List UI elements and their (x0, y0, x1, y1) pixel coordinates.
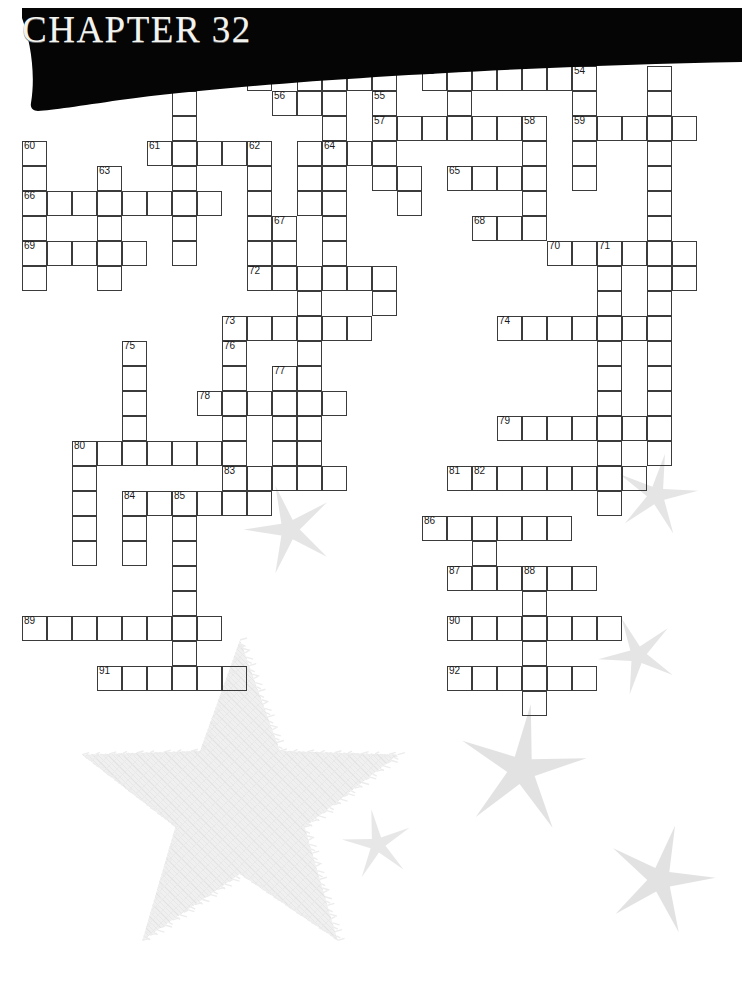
crossword-cell[interactable] (497, 666, 522, 691)
crossword-cell[interactable] (522, 666, 547, 691)
crossword-cell-84[interactable]: 84 (122, 491, 147, 516)
crossword-cell[interactable] (247, 466, 272, 491)
crossword-cell[interactable] (572, 166, 597, 191)
crossword-cell[interactable] (197, 491, 222, 516)
crossword-cell[interactable] (272, 441, 297, 466)
crossword-cell[interactable] (172, 591, 197, 616)
crossword-cell[interactable] (297, 366, 322, 391)
crossword-cell-74[interactable]: 74 (497, 316, 522, 341)
crossword-cell[interactable] (247, 241, 272, 266)
crossword-cell[interactable] (322, 266, 347, 291)
crossword-cell-77[interactable]: 77 (272, 366, 297, 391)
crossword-cell[interactable] (22, 166, 47, 191)
crossword-cell[interactable] (647, 266, 672, 291)
crossword-cell[interactable] (547, 566, 572, 591)
crossword-cell[interactable] (122, 241, 147, 266)
crossword-cell[interactable] (122, 516, 147, 541)
crossword-cell[interactable] (497, 116, 522, 141)
crossword-cell[interactable] (497, 216, 522, 241)
crossword-cell[interactable] (672, 241, 697, 266)
crossword-cell-80[interactable]: 80 (72, 441, 97, 466)
crossword-cell[interactable] (522, 466, 547, 491)
crossword-cell-83[interactable]: 83 (222, 466, 247, 491)
crossword-cell[interactable] (497, 616, 522, 641)
crossword-cell[interactable] (547, 416, 572, 441)
crossword-cell-67[interactable]: 67 (272, 216, 297, 241)
crossword-cell-92[interactable]: 92 (447, 666, 472, 691)
crossword-cell[interactable] (597, 441, 622, 466)
crossword-cell[interactable] (72, 241, 97, 266)
crossword-cell[interactable] (322, 316, 347, 341)
crossword-cell[interactable] (497, 516, 522, 541)
crossword-cell[interactable] (622, 466, 647, 491)
crossword-cell[interactable] (197, 141, 222, 166)
crossword-cell[interactable] (522, 191, 547, 216)
crossword-cell[interactable] (72, 541, 97, 566)
crossword-cell[interactable] (597, 491, 622, 516)
crossword-cell[interactable] (297, 466, 322, 491)
crossword-cell[interactable] (522, 691, 547, 716)
crossword-cell[interactable] (97, 216, 122, 241)
crossword-cell[interactable] (372, 166, 397, 191)
crossword-cell[interactable] (322, 241, 347, 266)
crossword-cell[interactable] (497, 566, 522, 591)
crossword-cell[interactable] (647, 191, 672, 216)
crossword-cell[interactable] (472, 616, 497, 641)
crossword-cell[interactable] (172, 241, 197, 266)
crossword-cell[interactable] (447, 516, 472, 541)
crossword-cell[interactable] (47, 241, 72, 266)
crossword-cell[interactable] (472, 516, 497, 541)
crossword-cell-82[interactable]: 82 (472, 466, 497, 491)
crossword-cell[interactable] (597, 466, 622, 491)
crossword-cell[interactable] (522, 416, 547, 441)
crossword-cell[interactable] (572, 466, 597, 491)
crossword-cell-66[interactable]: 66 (22, 191, 47, 216)
crossword-cell-85[interactable]: 85 (172, 491, 197, 516)
crossword-cell[interactable] (597, 391, 622, 416)
crossword-cell-60[interactable]: 60 (22, 141, 47, 166)
crossword-cell[interactable] (297, 166, 322, 191)
crossword-cell[interactable] (447, 116, 472, 141)
crossword-cell[interactable] (547, 466, 572, 491)
crossword-cell[interactable] (122, 616, 147, 641)
crossword-cell[interactable] (547, 516, 572, 541)
crossword-cell[interactable] (322, 216, 347, 241)
crossword-cell[interactable] (72, 191, 97, 216)
crossword-cell-87[interactable]: 87 (447, 566, 472, 591)
crossword-cell[interactable] (222, 441, 247, 466)
crossword-cell[interactable] (597, 616, 622, 641)
crossword-cell[interactable] (397, 166, 422, 191)
crossword-cell[interactable] (172, 166, 197, 191)
crossword-cell[interactable] (647, 291, 672, 316)
crossword-cell[interactable] (97, 191, 122, 216)
crossword-cell[interactable] (622, 416, 647, 441)
crossword-cell[interactable] (247, 391, 272, 416)
crossword-cell[interactable] (497, 166, 522, 191)
crossword-cell[interactable] (122, 666, 147, 691)
crossword-cell[interactable] (322, 391, 347, 416)
crossword-cell[interactable] (372, 141, 397, 166)
crossword-cell[interactable] (297, 391, 322, 416)
crossword-cell[interactable] (647, 166, 672, 191)
crossword-cell[interactable] (172, 116, 197, 141)
crossword-cell[interactable] (247, 491, 272, 516)
crossword-cell[interactable] (97, 241, 122, 266)
crossword-cell[interactable] (347, 141, 372, 166)
crossword-cell[interactable] (547, 666, 572, 691)
crossword-cell[interactable] (172, 616, 197, 641)
crossword-cell[interactable] (272, 316, 297, 341)
crossword-cell[interactable] (647, 366, 672, 391)
crossword-cell[interactable] (597, 416, 622, 441)
crossword-cell[interactable] (522, 516, 547, 541)
crossword-cell[interactable] (322, 166, 347, 191)
crossword-cell[interactable] (672, 116, 697, 141)
crossword-cell-57[interactable]: 57 (372, 116, 397, 141)
crossword-cell[interactable] (22, 266, 47, 291)
crossword-cell[interactable] (122, 541, 147, 566)
crossword-cell[interactable] (247, 316, 272, 341)
crossword-cell[interactable] (122, 366, 147, 391)
crossword-cell[interactable] (597, 291, 622, 316)
crossword-cell[interactable] (172, 216, 197, 241)
crossword-cell[interactable] (522, 166, 547, 191)
crossword-cell-61[interactable]: 61 (147, 141, 172, 166)
